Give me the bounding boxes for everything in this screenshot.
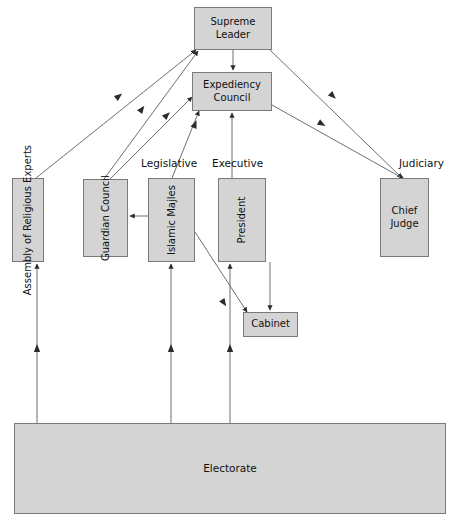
node-cabinet[interactable]: Cabinet (243, 312, 298, 337)
node-islamic-majles[interactable]: Islamic Majles (148, 178, 195, 262)
arrowhead-mid-electorate-assembly (34, 344, 40, 352)
node-supreme-leader-label: Supreme Leader (211, 16, 256, 40)
node-islamic-majles-label: Islamic Majles (165, 185, 177, 255)
node-supreme-leader[interactable]: Supreme Leader (194, 7, 272, 50)
node-president[interactable]: President (218, 178, 266, 262)
node-chief-judge[interactable]: Chief Judge (380, 178, 429, 257)
arrowhead-mid-assembly-supreme (114, 91, 124, 101)
branch-label-legislative: Legislative (141, 157, 197, 169)
node-electorate[interactable]: Electorate (14, 423, 446, 514)
node-guardian-council[interactable]: Guardian Council (83, 179, 128, 257)
branch-label-executive: Executive (212, 157, 263, 169)
node-expediency-council-label: Expediency Council (203, 79, 261, 103)
arrowhead-mid-electorate-president (227, 344, 233, 352)
arrowhead-mid-majles-cabinet (219, 298, 229, 308)
arrowhead-mid-electorate-majles (168, 344, 174, 352)
government-structure-diagram: Supreme Leader Expediency Council Assemb… (0, 0, 460, 530)
node-electorate-label: Electorate (203, 462, 257, 475)
branch-label-judiciary: Judiciary (399, 157, 444, 169)
arrowhead-mid-expediency-chief (317, 119, 327, 128)
node-chief-judge-label: Chief Judge (390, 205, 418, 229)
node-cabinet-label: Cabinet (251, 318, 290, 330)
node-assembly-of-religious-experts-label: Assembly of Religious Experts (22, 145, 34, 295)
node-guardian-council-label: Guardian Council (99, 175, 111, 261)
edge-supreme-to-chief-judge (270, 50, 402, 178)
arrowhead-mid-supreme-chief (328, 91, 338, 101)
node-assembly-of-religious-experts[interactable]: Assembly of Religious Experts (12, 178, 44, 262)
arrowhead-mid-guardian-supreme (137, 104, 147, 114)
node-expediency-council[interactable]: Expediency Council (192, 72, 272, 111)
node-president-label: President (236, 197, 248, 244)
